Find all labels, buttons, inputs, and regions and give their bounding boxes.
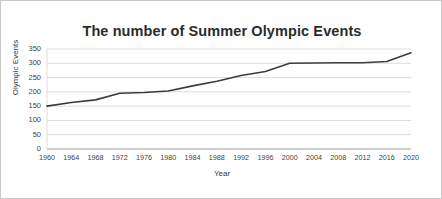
plot-area [1, 1, 442, 199]
chart-container: The number of Summer Olympic Events Olym… [0, 0, 442, 199]
y-tick-label: 250 [17, 74, 41, 82]
y-tick-label: 350 [17, 45, 41, 53]
y-tick-label: 150 [17, 102, 41, 110]
y-tick-label: 50 [17, 131, 41, 139]
y-tick-label: 200 [17, 88, 41, 96]
y-tick-label: 300 [17, 59, 41, 67]
data-series-line [47, 53, 411, 106]
x-tick-label: 2020 [396, 154, 426, 162]
y-tick-label: 100 [17, 116, 41, 124]
y-tick-label: 0 [17, 145, 41, 153]
